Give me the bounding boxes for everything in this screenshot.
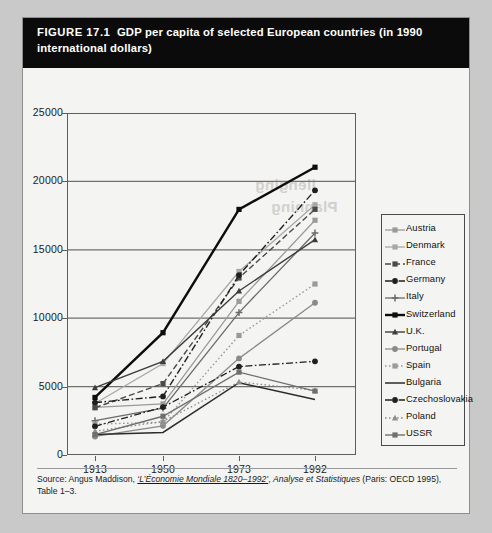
y-axis-tick-mark bbox=[62, 455, 67, 456]
chart-legend: AustriaDenmarkFranceGermanyItalySwitzerl… bbox=[381, 214, 465, 446]
y-axis-tick-mark bbox=[62, 113, 67, 114]
legend-label: U.K. bbox=[406, 325, 425, 336]
y-axis-tick-label: 10000 bbox=[17, 311, 63, 323]
legend-marker bbox=[392, 432, 397, 437]
chart-region: llenging Planning 0500010000150002000025… bbox=[23, 68, 471, 468]
legend-marker bbox=[392, 398, 398, 404]
legend-item-denmark[interactable]: Denmark bbox=[384, 236, 461, 253]
source-prefix: Source: Angus Maddison, bbox=[37, 474, 137, 484]
legend-marker bbox=[392, 227, 397, 232]
legend-symbol-svg bbox=[384, 292, 406, 304]
source-divider bbox=[37, 468, 457, 469]
legend-label: Poland bbox=[406, 410, 436, 421]
legend-marker bbox=[392, 364, 397, 369]
legend-swatch bbox=[384, 239, 406, 251]
legend-item-spain[interactable]: Spain bbox=[384, 356, 461, 373]
legend-item-switzerland[interactable]: Switzerland bbox=[384, 304, 461, 321]
legend-symbol-svg bbox=[384, 412, 406, 424]
legend-symbol-svg bbox=[384, 394, 406, 406]
legend-marker bbox=[392, 244, 397, 249]
legend-item-portugal[interactable]: Portugal bbox=[384, 339, 461, 356]
y-axis-tick-label: 5000 bbox=[17, 380, 63, 392]
legend-swatch bbox=[384, 290, 406, 302]
figure-panel: FIGURE 17.1 GDP per capita of selected E… bbox=[22, 17, 470, 514]
legend-symbol-svg bbox=[384, 241, 406, 253]
y-axis-tick-label: 20000 bbox=[17, 174, 63, 186]
legend-label: France bbox=[406, 256, 436, 267]
legend-swatch bbox=[384, 324, 406, 336]
figure-caption: FIGURE 17.1 GDP per capita of selected E… bbox=[37, 25, 455, 56]
y-axis-tick-label: 25000 bbox=[17, 106, 63, 118]
legend-symbol-svg bbox=[384, 429, 406, 441]
legend-swatch bbox=[384, 307, 406, 319]
legend-label: Switzerland bbox=[406, 308, 456, 319]
x-axis-tick-mark bbox=[239, 456, 240, 461]
legend-symbol-svg bbox=[384, 326, 406, 338]
legend-item-u-k-[interactable]: U.K. bbox=[384, 322, 461, 339]
legend-item-france[interactable]: France bbox=[384, 253, 461, 270]
legend-swatch bbox=[384, 358, 406, 370]
legend-swatch bbox=[384, 392, 406, 404]
y-axis-tick-label: 0 bbox=[17, 448, 63, 460]
legend-item-italy[interactable]: Italy bbox=[384, 287, 461, 304]
source-series-title: Analyse et Statistiques bbox=[273, 474, 360, 484]
y-axis-tick-mark bbox=[62, 250, 67, 251]
legend-symbol-svg bbox=[384, 377, 406, 389]
legend-marker bbox=[392, 312, 397, 317]
legend-marker bbox=[392, 346, 398, 352]
x-axis-tick-mark bbox=[95, 456, 96, 461]
legend-label: Bulgaria bbox=[406, 376, 441, 387]
y-axis-tick-mark bbox=[62, 318, 67, 319]
legend-label: Denmark bbox=[406, 239, 445, 250]
y-axis-tick-label: 15000 bbox=[17, 243, 63, 255]
legend-swatch bbox=[384, 427, 406, 439]
x-axis-tick-mark bbox=[315, 456, 316, 461]
legend-swatch bbox=[384, 256, 406, 268]
plot-frame bbox=[67, 113, 356, 455]
source-work-title: ‘L’Économie Mondiale 1820–1992’ bbox=[137, 474, 268, 484]
legend-item-austria[interactable]: Austria bbox=[384, 219, 461, 236]
legend-swatch bbox=[384, 222, 406, 234]
figure-number: FIGURE 17.1 bbox=[37, 26, 110, 38]
legend-item-bulgaria[interactable]: Bulgaria bbox=[384, 373, 461, 390]
legend-marker bbox=[392, 278, 398, 284]
legend-swatch bbox=[384, 375, 406, 387]
legend-item-czechoslovakia[interactable]: Czechoslovakia bbox=[384, 390, 461, 407]
legend-label: Portugal bbox=[406, 342, 442, 353]
legend-label: Germany bbox=[406, 273, 445, 284]
legend-label: Italy bbox=[406, 290, 424, 301]
legend-symbol-svg bbox=[384, 309, 406, 321]
legend-symbol-svg bbox=[384, 224, 406, 236]
legend-marker bbox=[392, 295, 399, 302]
legend-symbol-svg bbox=[384, 360, 406, 372]
x-axis-tick-mark bbox=[163, 456, 164, 461]
legend-marker bbox=[392, 261, 397, 266]
legend-symbol-svg bbox=[384, 343, 406, 355]
legend-symbol-svg bbox=[384, 258, 406, 270]
legend-item-ussr[interactable]: USSR bbox=[384, 424, 461, 441]
legend-swatch bbox=[384, 410, 406, 422]
legend-symbol-svg bbox=[384, 275, 406, 287]
y-axis-tick-mark bbox=[62, 181, 67, 182]
legend-item-poland[interactable]: Poland bbox=[384, 407, 461, 424]
source-note: Source: Angus Maddison, ‘L’Économie Mond… bbox=[37, 474, 461, 497]
legend-swatch bbox=[384, 341, 406, 353]
legend-item-germany[interactable]: Germany bbox=[384, 270, 461, 287]
legend-swatch bbox=[384, 273, 406, 285]
legend-label: Austria bbox=[406, 222, 436, 233]
legend-label: USSR bbox=[406, 427, 432, 438]
legend-label: Spain bbox=[406, 359, 430, 370]
legend-label: Czechoslovakia bbox=[406, 393, 473, 404]
y-axis-tick-mark bbox=[62, 387, 67, 388]
figure-caption-bar: FIGURE 17.1 GDP per capita of selected E… bbox=[23, 18, 469, 68]
